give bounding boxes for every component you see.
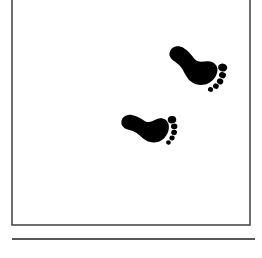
figure-canvas — [0, 0, 262, 258]
figure-panel: Two black footprint silhouettes inside a… — [0, 0, 262, 258]
